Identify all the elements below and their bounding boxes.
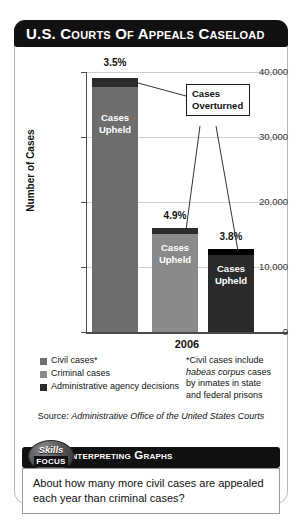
chart-footnote: *Civil cases include habeas corpus cases…	[186, 355, 286, 401]
footnote-line-3: by inmates in state	[186, 378, 261, 388]
skills-badge-bottom-label: FOCUS	[34, 456, 68, 467]
legend-swatch-icon-criminal	[40, 371, 47, 378]
skills-badge-top-label: Skills	[29, 444, 73, 455]
source-name: Administrative Office of the United Stat…	[71, 411, 264, 421]
skills-focus-band-title: Interpreting Graphs	[68, 449, 172, 461]
legend-item-civil: Civil cases*	[40, 355, 180, 366]
skills-focus-question-box: About how many more civil cases are appe…	[22, 468, 280, 514]
chart-legend: Civil cases* Criminal cases Administrati…	[40, 355, 180, 394]
legend-swatch-icon-civil	[40, 358, 47, 365]
callout-cases-overturned: CasesOverturned	[186, 84, 250, 116]
chart-source: Source: Administrative Office of the Uni…	[14, 411, 288, 423]
legend-label-criminal: Criminal cases	[51, 368, 110, 379]
skills-focus-question-text: About how many more civil cases are appe…	[33, 476, 269, 506]
legend-label-administrative: Administrative agency decisions	[51, 381, 179, 392]
legend-swatch-icon-administrative	[40, 384, 47, 391]
x-axis-category-label: 2006	[86, 338, 288, 350]
footnote-line-2-italic: habeas corpus	[186, 367, 245, 377]
chart-title-banner: U.S. Courts of Appeals Caseload	[14, 20, 288, 47]
legend-item-administrative: Administrative agency decisions	[40, 381, 180, 392]
legend-label-civil: Civil cases*	[51, 355, 98, 366]
chart-plot-area: 40,000 30,000 20,000 10,000 0 Number of …	[14, 50, 288, 342]
source-prefix: Source:	[38, 411, 72, 421]
footnote-line-1: *Civil cases include	[186, 355, 264, 365]
legend-item-criminal: Criminal cases	[40, 368, 180, 379]
page-title: U.S. Courts of Appeals Caseload	[14, 25, 265, 42]
footnote-line-4: and federal prisons	[186, 390, 263, 400]
footnote-line-2-rest: cases	[245, 367, 271, 377]
